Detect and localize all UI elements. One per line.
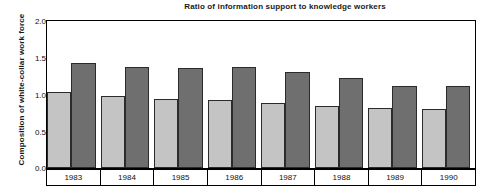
bar-light-1987[interactable] bbox=[261, 103, 285, 168]
bar-dark-1983[interactable] bbox=[71, 63, 95, 168]
bar-light-1984[interactable] bbox=[101, 96, 125, 168]
bar-dark-1985[interactable] bbox=[178, 68, 202, 168]
bar-dark-1990[interactable] bbox=[446, 86, 470, 168]
y-tick-label-0: 0.0 bbox=[22, 164, 46, 173]
x-axis-year-cells: 19831984198519861987198819891990 bbox=[46, 169, 476, 186]
bar-light-1983[interactable] bbox=[47, 92, 71, 168]
x-axis-label-1988: 1988 bbox=[315, 170, 369, 185]
x-axis-label-1983: 1983 bbox=[47, 170, 101, 185]
bar-dark-1988[interactable] bbox=[339, 78, 363, 168]
bar-light-1988[interactable] bbox=[315, 106, 339, 168]
year-group bbox=[422, 21, 476, 168]
year-group bbox=[47, 21, 101, 168]
x-axis-label-1986: 1986 bbox=[208, 170, 262, 185]
x-axis-label-1984: 1984 bbox=[101, 170, 155, 185]
x-axis-label-1989: 1989 bbox=[369, 170, 423, 185]
y-tick-label-1-5: 1.5 bbox=[22, 54, 46, 63]
bar-dark-1984[interactable] bbox=[125, 67, 149, 168]
bars-area bbox=[47, 21, 475, 168]
x-axis-label-1990: 1990 bbox=[422, 170, 475, 185]
year-group bbox=[208, 21, 262, 168]
y-tick-label-1: 1.0 bbox=[22, 91, 46, 100]
x-axis-label-1987: 1987 bbox=[262, 170, 316, 185]
y-axis-tick-labels: 2.0 1.5 1.0 0.5 0.0 bbox=[14, 0, 46, 196]
year-group bbox=[315, 21, 369, 168]
bar-dark-1986[interactable] bbox=[232, 67, 256, 168]
y-tick-label-2: 2.0 bbox=[22, 17, 46, 26]
bar-light-1985[interactable] bbox=[154, 99, 178, 168]
year-group bbox=[101, 21, 155, 168]
bar-light-1990[interactable] bbox=[422, 109, 446, 168]
y-tick-label-0-5: 0.5 bbox=[22, 128, 46, 137]
chart-title: Ratio of information support to knowledg… bbox=[120, 2, 450, 11]
bar-light-1989[interactable] bbox=[368, 108, 392, 168]
x-axis-label-1985: 1985 bbox=[154, 170, 208, 185]
year-group bbox=[261, 21, 315, 168]
bar-chart: Ratio of information support to knowledg… bbox=[0, 0, 483, 196]
bar-dark-1987[interactable] bbox=[285, 72, 309, 168]
bar-dark-1989[interactable] bbox=[392, 86, 416, 168]
year-group bbox=[154, 21, 208, 168]
year-group bbox=[368, 21, 422, 168]
bar-light-1986[interactable] bbox=[208, 100, 232, 168]
